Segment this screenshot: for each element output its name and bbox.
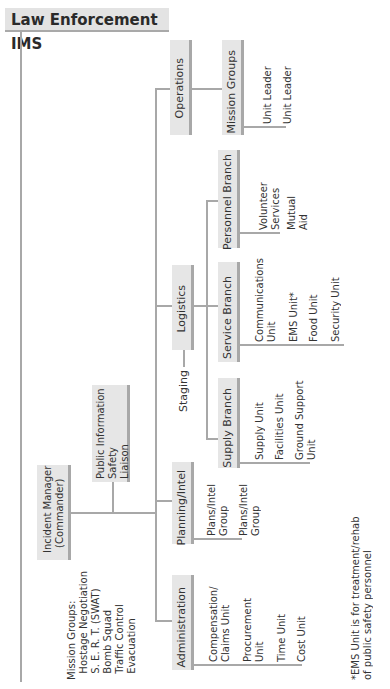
service-unit: EMS Unit* (288, 290, 300, 342)
supply-unit: Supply Unit (254, 398, 266, 460)
administration-box: Administration (172, 575, 194, 670)
service-branch-box: Service Branch (218, 262, 240, 362)
connector (240, 232, 280, 234)
mission-groups-label: Mission Groups (226, 50, 238, 133)
connector (244, 126, 286, 128)
personnel-branch-box: Personnel Branch (218, 150, 240, 248)
connector (155, 305, 173, 307)
operations-box: Operations (170, 40, 192, 135)
footnote: *EMS Unit is for treatment/rehab of publ… (350, 520, 374, 680)
service-unit: Security Unit (330, 270, 342, 342)
admin-unit: Time Unit (276, 610, 288, 662)
supply-branch-box: Supply Branch (218, 378, 240, 468)
administration-label: Administration (176, 587, 188, 668)
staging-label: Staging (178, 370, 190, 412)
mission-groups-note: Mission Groups: Hostage Negotiation S. E… (66, 560, 138, 680)
mission-groups-box: Mission Groups (222, 40, 244, 135)
connector (192, 88, 222, 90)
planning-unit: Plans/Intel Group (238, 490, 262, 536)
incident-manager-label: Incident Manager (Commander) (42, 473, 66, 553)
planning-label: Planning/Intel (176, 470, 188, 545)
service-branch-label: Service Branch (222, 276, 234, 359)
incident-manager-box: Incident Manager (Commander) (37, 465, 71, 560)
personnel-unit: Volunteer Services (258, 180, 282, 230)
connector (155, 500, 173, 502)
command-staff-label: Public Information Safety Liaison (95, 389, 131, 479)
service-unit: Communications Unit (254, 256, 278, 342)
admin-unit: Procurement Unit (242, 598, 266, 662)
branch-spine (206, 200, 208, 440)
supply-branch-label: Supply Branch (222, 388, 234, 468)
planning-unit: Plans/Intel Group (206, 490, 230, 536)
logistics-label: Logistics (176, 285, 188, 333)
supply-unit: Facilities Unit (274, 380, 286, 460)
supply-unit: Ground Support Unit (294, 370, 318, 460)
service-unit: Food Unit (308, 288, 320, 342)
command-staff-box: Public Information Safety Liaison (92, 385, 130, 482)
operations-label: Operations (174, 58, 186, 118)
planning-box: Planning/Intel (172, 462, 194, 544)
logistics-box: Logistics (172, 265, 194, 350)
admin-unit: Compensation/ Claims Unit (208, 590, 232, 662)
connector (183, 350, 185, 367)
chart-title: Law Enforcement IMS (5, 8, 169, 32)
connector (112, 482, 114, 513)
connector (194, 538, 242, 540)
connector (240, 344, 344, 346)
section-spine (155, 88, 157, 621)
connector (194, 664, 302, 666)
mission-unit: Unit Leader (262, 60, 274, 124)
left-rule (20, 32, 22, 682)
personnel-unit: Mutual Aid (286, 190, 310, 230)
admin-unit: Cost Unit (296, 612, 308, 662)
mission-unit: Unit Leader (282, 60, 294, 124)
connector (155, 620, 173, 622)
personnel-branch-label: Personnel Branch (222, 154, 234, 250)
connector (240, 462, 310, 464)
